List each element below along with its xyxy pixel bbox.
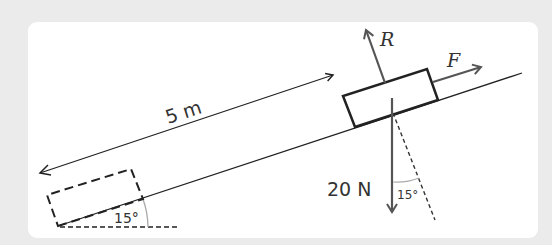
current-position-block bbox=[343, 69, 438, 127]
applied-force-label: F bbox=[446, 49, 461, 71]
reaction-force-label: R bbox=[379, 28, 394, 50]
incline-angle-label: 15° bbox=[114, 210, 139, 226]
weight-angle-arc bbox=[393, 178, 419, 182]
distance-arrow bbox=[40, 75, 333, 173]
weight-label: 20 N bbox=[327, 178, 371, 200]
incline-angle-arc bbox=[143, 199, 148, 227]
distance-label: 5 m bbox=[162, 96, 204, 128]
normal-dashed-line bbox=[393, 113, 435, 220]
inclined-plane-diagram: 15° 5 m R F 20 N 15° bbox=[0, 0, 552, 245]
weight-angle-label: 15° bbox=[397, 188, 418, 202]
